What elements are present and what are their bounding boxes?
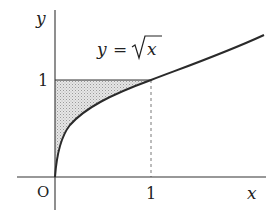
function-label: y = x <box>96 36 162 59</box>
y-tick-label-1: 1 <box>38 71 48 90</box>
y-axis-label: y <box>35 8 46 28</box>
x-axis-label: x <box>247 183 257 203</box>
x-tick-label-1: 1 <box>146 184 156 203</box>
shaded-region <box>55 80 151 177</box>
svg-text:=: = <box>113 39 127 59</box>
svg-text:y: y <box>96 39 107 59</box>
svg-text:x: x <box>147 39 157 59</box>
origin-label: O <box>37 183 49 201</box>
sqrt-function-diagram: y x O 1 1 y = x <box>0 0 278 219</box>
